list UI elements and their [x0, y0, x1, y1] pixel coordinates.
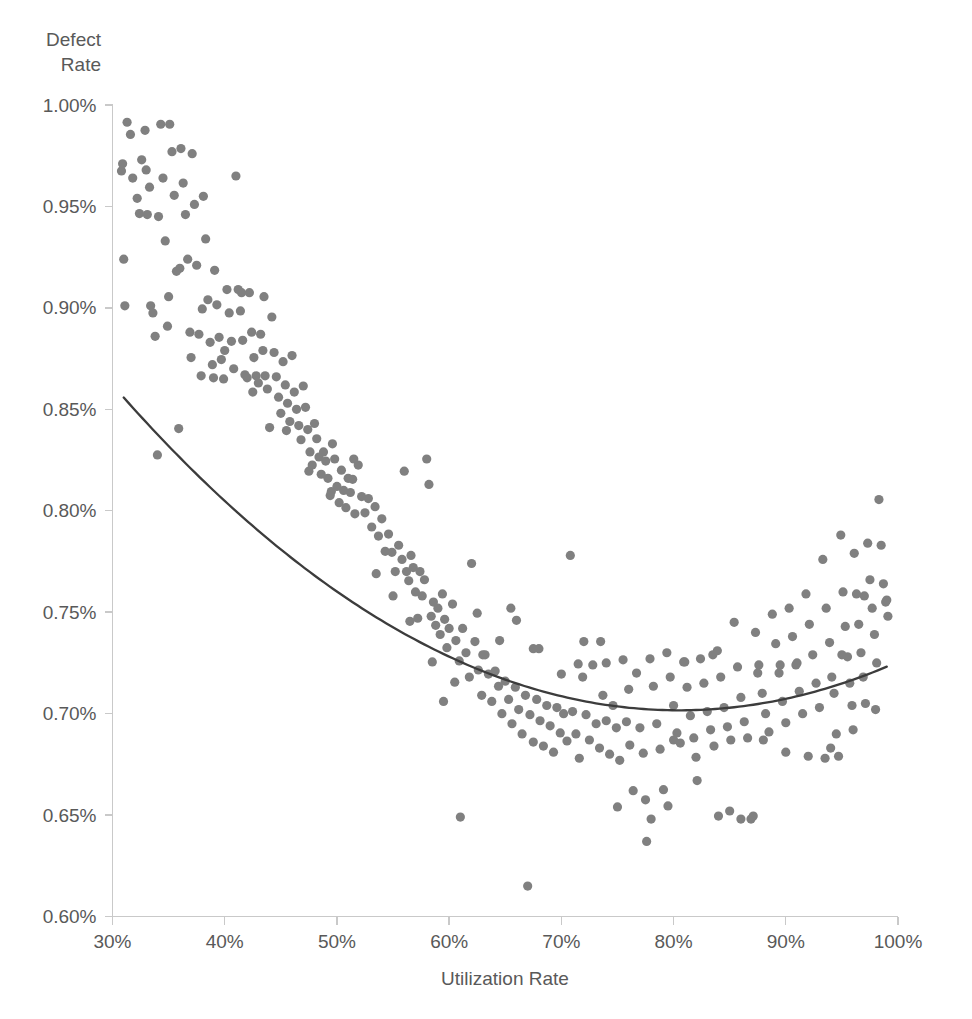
- scatter-point: [119, 255, 128, 264]
- scatter-point: [602, 716, 611, 725]
- scatter-point: [495, 636, 504, 645]
- scatter-point: [730, 618, 739, 627]
- scatter-chart-figure: Defect Rate 0.60%0.65%0.70%0.75%0.80%0.8…: [0, 0, 972, 1019]
- scatter-point: [629, 786, 638, 795]
- scatter-point: [192, 261, 201, 270]
- scatter-point: [618, 655, 627, 664]
- scatter-point: [467, 559, 476, 568]
- scatter-point: [764, 727, 773, 736]
- scatter-point: [822, 604, 831, 613]
- scatter-point: [578, 673, 587, 682]
- scatter-point: [158, 173, 167, 182]
- scatter-point: [188, 149, 197, 158]
- scatter-point: [706, 725, 715, 734]
- scatter-point: [579, 637, 588, 646]
- scatter-point: [693, 776, 702, 785]
- scatter-point: [267, 312, 276, 321]
- scatter-point: [615, 756, 624, 765]
- scatter-point: [649, 682, 658, 691]
- scatter-point: [330, 454, 339, 463]
- scatter-point: [212, 300, 221, 309]
- scatter-point: [662, 648, 671, 657]
- scatter-point: [174, 424, 183, 433]
- scatter-point: [133, 194, 142, 203]
- scatter-point: [323, 474, 332, 483]
- x-tick-label: 80%: [655, 931, 693, 952]
- scatter-point: [612, 723, 621, 732]
- y-tick-label: 0.75%: [43, 602, 97, 623]
- scatter-point: [699, 679, 708, 688]
- scatter-point: [384, 529, 393, 538]
- scatter-point: [397, 555, 406, 564]
- x-tick-label: 50%: [318, 931, 356, 952]
- scatter-point: [249, 353, 258, 362]
- scatter-point: [758, 689, 767, 698]
- scatter-point: [477, 691, 486, 700]
- scatter-point: [428, 657, 437, 666]
- scatter-point: [497, 709, 506, 718]
- scatter-point: [792, 658, 801, 667]
- scatter-point: [666, 673, 675, 682]
- scatter-point: [733, 662, 742, 671]
- scatter-point: [574, 659, 583, 668]
- scatter-point: [175, 264, 184, 273]
- scatter-point: [179, 179, 188, 188]
- scatter-point: [820, 754, 829, 763]
- scatter-point: [227, 337, 236, 346]
- scatter-point: [487, 697, 496, 706]
- x-axis-title: Utilization Rate: [441, 968, 569, 989]
- scatter-point: [274, 393, 283, 402]
- scatter-point: [304, 467, 313, 476]
- scatter-point: [143, 210, 152, 219]
- scatter-point: [327, 487, 336, 496]
- scatter-point: [622, 717, 631, 726]
- scatter-point: [256, 330, 265, 339]
- scatter-point: [198, 304, 207, 313]
- scatter-point: [788, 632, 797, 641]
- scatter-point: [440, 615, 449, 624]
- scatter-point: [535, 716, 544, 725]
- scatter-point: [736, 815, 745, 824]
- scatter-point: [808, 650, 817, 659]
- scatter-point: [436, 630, 445, 639]
- scatter-point: [337, 466, 346, 475]
- scatter-point: [201, 234, 210, 243]
- scatter-point: [153, 450, 162, 459]
- scatter-point: [768, 610, 777, 619]
- scatter-point: [827, 673, 836, 682]
- scatter-point: [415, 567, 424, 576]
- scatter-point: [194, 330, 203, 339]
- scatter-point: [834, 752, 843, 761]
- trendline-quadratic: [124, 398, 887, 711]
- y-axis-title-line2: Rate: [61, 54, 101, 75]
- scatter-point: [736, 693, 745, 702]
- scatter-point: [781, 748, 790, 757]
- scatter-point: [818, 555, 827, 564]
- scatter-point: [507, 719, 516, 728]
- scatter-point: [406, 551, 415, 560]
- scatter-point: [566, 551, 575, 560]
- scatter-point: [585, 735, 594, 744]
- y-axis-title: Defect Rate: [46, 29, 102, 75]
- scatter-point: [546, 721, 555, 730]
- scatter-point: [723, 722, 732, 731]
- scatter-point: [299, 381, 308, 390]
- scatter-point: [639, 749, 648, 758]
- scatter-point: [749, 811, 758, 820]
- scatter-point: [529, 737, 538, 746]
- scatter-point: [568, 707, 577, 716]
- scatter-point: [877, 541, 886, 550]
- scatter-point: [504, 695, 513, 704]
- scatter-point: [328, 439, 337, 448]
- y-tick-label: 0.90%: [43, 297, 97, 318]
- scatter-point: [287, 351, 296, 360]
- scatter-point: [156, 120, 165, 129]
- scatter-point: [348, 475, 357, 484]
- scatter-point: [142, 165, 151, 174]
- scatter-point: [122, 118, 131, 127]
- scatter-point: [209, 373, 218, 382]
- y-tick-label: 0.80%: [43, 500, 97, 521]
- scatter-point: [154, 212, 163, 221]
- scatter-point: [521, 691, 530, 700]
- scatter-point: [652, 719, 661, 728]
